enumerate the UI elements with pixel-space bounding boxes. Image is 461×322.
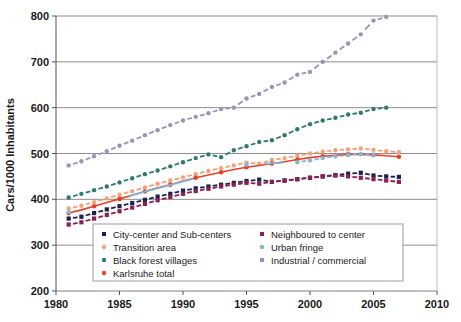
series-dash [162, 195, 167, 196]
y-tick-label-400: 400 [31, 193, 49, 205]
data-point [371, 177, 375, 181]
data-point [206, 152, 210, 156]
series-dash [264, 163, 282, 164]
series-dash [365, 174, 370, 175]
data-point [206, 187, 210, 191]
data-point [117, 209, 121, 213]
series-dash [86, 191, 91, 192]
data-point [219, 107, 223, 111]
data-point [143, 133, 147, 137]
y-tick-label-300: 300 [31, 239, 49, 251]
data-point [79, 215, 83, 219]
data-point [117, 193, 121, 197]
data-point [295, 127, 299, 131]
series-dash [378, 18, 383, 19]
data-point [194, 156, 198, 160]
cars-per-1000-inhabitants-scatter-chart: 200300400500600700800 198019851990199520… [0, 0, 461, 322]
data-point [168, 123, 172, 127]
data-point [219, 155, 223, 159]
legend-item-2[interactable]: Black forest villages [102, 255, 197, 266]
data-point [321, 174, 325, 178]
series-dash [276, 159, 281, 160]
data-point [321, 118, 325, 122]
series-dash [213, 187, 218, 188]
data-point [257, 178, 261, 182]
data-point [67, 210, 71, 214]
data-point [130, 205, 134, 209]
legend-marker-icon [260, 232, 264, 236]
legend-label: Neighboured to center [271, 229, 365, 240]
data-point [92, 211, 96, 215]
data-point [105, 213, 109, 217]
data-point [384, 15, 388, 19]
series-dash [175, 195, 180, 196]
data-point [193, 175, 198, 180]
series-dash [264, 161, 269, 162]
series-dash [162, 198, 167, 199]
legend-item-0[interactable]: City-center and Sub-centers [102, 229, 232, 240]
data-point [333, 116, 337, 120]
series-dash [111, 207, 116, 208]
legend-label: Urban fringe [271, 242, 323, 253]
legend-item-6[interactable]: Industrial / commercial [260, 255, 366, 266]
data-point [359, 111, 363, 115]
data-point [371, 107, 375, 111]
data-point [79, 204, 83, 208]
y-tick-label-600: 600 [31, 102, 49, 114]
series-dash [175, 178, 180, 179]
legend-item-4[interactable]: Neighboured to center [260, 229, 365, 240]
series-dash [124, 192, 129, 193]
data-point [346, 174, 350, 178]
y-tick-label-200: 200 [31, 285, 49, 297]
data-point [67, 163, 71, 167]
data-point [130, 189, 134, 193]
data-point [105, 207, 109, 211]
series-dash [327, 119, 332, 120]
data-point [105, 196, 109, 200]
series-dash [86, 220, 91, 221]
data-point [282, 80, 286, 84]
series-dash [225, 185, 230, 186]
data-point [143, 172, 147, 176]
data-point [105, 149, 109, 153]
series-dash [162, 182, 167, 183]
series-dash [289, 156, 294, 157]
x-tick-label-2000: 2000 [298, 298, 322, 310]
data-point [67, 195, 71, 199]
legend-marker-icon [102, 258, 106, 262]
data-point [384, 105, 388, 109]
legend-item-3[interactable]: Karlsruhe total [102, 268, 174, 279]
series-dash [98, 200, 103, 201]
data-point [79, 159, 83, 163]
data-point [232, 183, 236, 187]
legend-item-1[interactable]: Transition area [102, 242, 177, 253]
x-tick-label-1990: 1990 [171, 298, 195, 310]
data-point [79, 192, 83, 196]
series-dash [225, 183, 230, 184]
data-point [244, 144, 248, 148]
series-dash [187, 189, 192, 190]
series-dash [86, 214, 91, 215]
data-point [92, 154, 96, 158]
y-tick-label-800: 800 [31, 10, 49, 22]
series-dash [238, 163, 243, 164]
data-point [333, 50, 337, 54]
data-point [282, 156, 286, 160]
series-dash [200, 189, 205, 190]
data-point [270, 180, 274, 184]
data-point [155, 128, 159, 132]
data-point [321, 60, 325, 64]
data-point [232, 163, 236, 167]
legend-label: Black forest villages [113, 255, 197, 266]
data-point [359, 32, 363, 36]
data-point [194, 189, 198, 193]
data-point [308, 176, 312, 180]
series-dash [352, 113, 357, 114]
series-dash [137, 205, 142, 206]
series-dash [200, 156, 205, 157]
data-point [156, 194, 160, 198]
data-point [117, 180, 121, 184]
data-point [143, 198, 147, 202]
data-point [232, 148, 236, 152]
data-point [270, 138, 274, 142]
